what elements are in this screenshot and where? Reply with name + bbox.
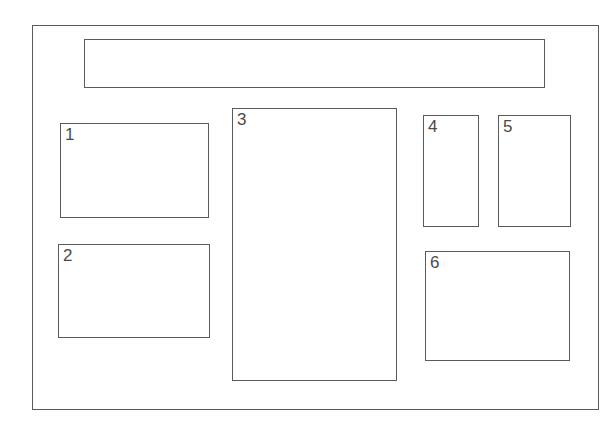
header-bar [84,39,545,88]
region-4: 4 [423,115,479,227]
region-5: 5 [498,115,571,227]
region-6-label: 6 [430,254,439,271]
region-5-label: 5 [503,118,512,135]
region-3-label: 3 [237,111,246,128]
region-1: 1 [60,123,209,218]
region-3: 3 [232,108,397,381]
region-4-label: 4 [428,118,437,135]
region-2-label: 2 [63,247,72,264]
region-6: 6 [425,251,570,361]
region-1-label: 1 [65,126,74,143]
region-2: 2 [58,244,210,338]
